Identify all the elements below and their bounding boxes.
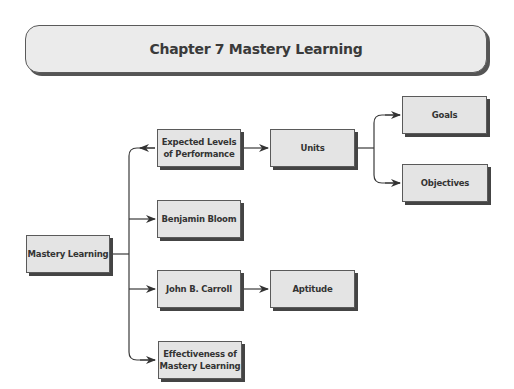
node-mastery-learning: Mastery Learning bbox=[26, 235, 110, 273]
node-label: Mastery Learning bbox=[28, 248, 109, 260]
node-aptitude: Aptitude bbox=[270, 270, 355, 308]
node-goals: Goals bbox=[402, 96, 487, 134]
node-objectives: Objectives bbox=[402, 164, 488, 202]
node-label: Aptitude bbox=[292, 283, 332, 295]
node-units: Units bbox=[270, 129, 355, 167]
node-john-carroll: John B. Carroll bbox=[157, 270, 241, 308]
chapter-title: Chapter 7 Mastery Learning bbox=[150, 41, 363, 57]
node-expected-levels: Expected Levels of Performance bbox=[157, 129, 241, 167]
node-label: Benjamin Bloom bbox=[162, 213, 237, 225]
node-label: Effectiveness of Mastery Learning bbox=[160, 348, 241, 372]
node-label: Expected Levels of Performance bbox=[162, 136, 237, 160]
node-label: Goals bbox=[432, 109, 458, 121]
node-benjamin-bloom: Benjamin Bloom bbox=[157, 200, 241, 238]
node-label: Units bbox=[301, 142, 325, 154]
node-label: John B. Carroll bbox=[166, 283, 232, 295]
chapter-title-banner: Chapter 7 Mastery Learning bbox=[25, 25, 487, 73]
node-effectiveness: Effectiveness of Mastery Learning bbox=[158, 341, 242, 379]
node-label: Objectives bbox=[421, 177, 469, 189]
